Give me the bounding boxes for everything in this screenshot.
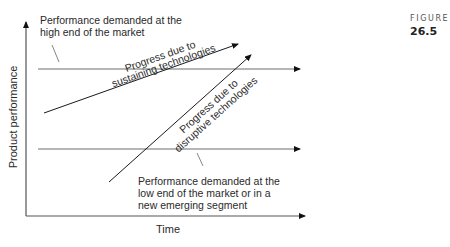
- low-end-callout-line1: Performance demanded at the: [138, 175, 280, 187]
- high-end-callout-line2: high end of the market: [40, 26, 145, 38]
- low-end-leader-line: [197, 153, 203, 166]
- high-end-leader-line: [52, 45, 59, 62]
- x-axis-label: Time: [156, 223, 180, 235]
- disruptive-innovation-diagram: Product performance Time Performance dem…: [0, 0, 450, 247]
- disruptive-label: Progress due to disruptive technologies: [165, 66, 260, 154]
- low-end-callout: Performance demanded at the low end of t…: [138, 153, 280, 211]
- low-end-callout-line2: low end of the market or in a: [138, 187, 271, 199]
- high-end-callout-line1: Performance demanded at the: [40, 14, 182, 26]
- y-axis-label: Product performance: [7, 66, 19, 169]
- low-end-callout-line3: new emerging segment: [138, 199, 247, 211]
- sustaining-label: Progress due to sustaining technologies: [107, 32, 217, 89]
